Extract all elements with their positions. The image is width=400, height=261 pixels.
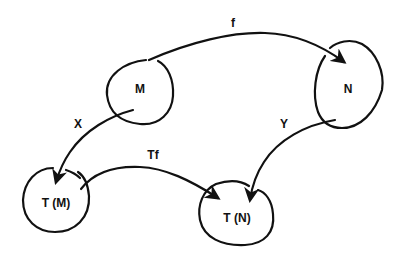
edge-y-label: Y xyxy=(280,117,288,131)
node-tm: T (M) xyxy=(23,168,89,232)
edge-x-label: X xyxy=(74,117,82,131)
node-tm-label: T (M) xyxy=(42,196,71,210)
edge-y: Y xyxy=(250,117,335,200)
node-n: N xyxy=(315,41,383,128)
node-tn-label: T (N) xyxy=(223,211,250,225)
node-tn: T (N) xyxy=(199,181,273,245)
node-m-label: M xyxy=(135,82,145,96)
edge-tf: Tf xyxy=(81,148,218,198)
edge-f-label: f xyxy=(231,16,236,30)
edge-f: f xyxy=(149,16,344,62)
diagram-canvas: M N T (M) T (N) f X Y Tf xyxy=(0,0,400,261)
node-n-label: N xyxy=(344,82,353,96)
edge-tf-label: Tf xyxy=(147,148,159,162)
